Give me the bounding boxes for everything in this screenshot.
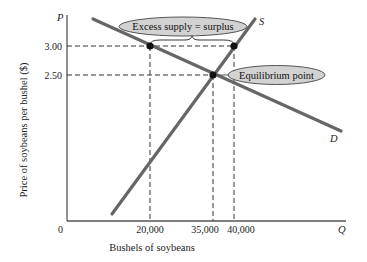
x-tick-35000: 35,000 <box>191 224 219 235</box>
demand-point-3-00 <box>146 42 153 49</box>
x-tick-40000: 40,000 <box>227 224 255 235</box>
y-tick-3-00: 3.00 <box>45 41 63 52</box>
demand-label: D <box>329 133 338 144</box>
x-axis-title: Bushels of soybeans <box>109 242 195 253</box>
p-axis-symbol: P <box>56 12 64 23</box>
supply-demand-chart: Excess supply = surplus Equilibrium poin… <box>0 0 367 262</box>
q-axis-symbol: Q <box>338 224 346 235</box>
y-axis-title: Price of soybeans per bushel ($) <box>18 62 30 198</box>
surplus-callout: Excess supply = surplus <box>119 17 247 36</box>
equilibrium-label: Equilibrium point <box>239 70 314 81</box>
equilibrium-point <box>209 71 216 78</box>
surplus-label: Excess supply = surplus <box>132 21 233 32</box>
supply-point-3-00 <box>230 42 237 49</box>
origin-label: 0 <box>58 224 63 235</box>
supply-label: S <box>259 16 265 27</box>
surplus-brace <box>150 35 234 45</box>
x-tick-20000: 20,000 <box>136 224 164 235</box>
y-tick-2-50: 2.50 <box>45 70 63 81</box>
